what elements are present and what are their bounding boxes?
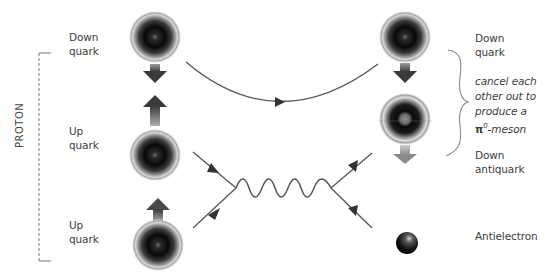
down-quark-right xyxy=(379,11,431,83)
up-quark-bottom xyxy=(132,198,184,271)
direction-arrow-icon xyxy=(275,97,285,107)
label-up-quark-middle: Up quark xyxy=(69,124,99,152)
down-quark-worldline xyxy=(186,62,378,107)
vertex-arrows xyxy=(207,160,358,220)
label-down-antiquark: Down antiquark xyxy=(475,148,524,176)
annotation-line: other out to xyxy=(475,89,537,104)
direction-arrow-icon xyxy=(208,208,220,220)
pi-symbol: π xyxy=(475,123,483,135)
label-down-quark-left: Down quark xyxy=(69,30,99,58)
interaction-vertices xyxy=(193,152,372,228)
down-antiquark xyxy=(378,93,432,164)
label-line: quark xyxy=(69,138,99,152)
proton-label: PROTON xyxy=(14,103,25,148)
label-line: Up xyxy=(69,218,99,232)
label-down-quark-right: Down quark xyxy=(475,31,505,59)
pi-meson-line: π0-meson xyxy=(475,119,537,137)
label-line: quark xyxy=(69,232,99,246)
label-line: Down xyxy=(475,31,505,45)
label-line: Down xyxy=(69,30,99,44)
label-line: Down xyxy=(475,148,524,162)
down-quark-left xyxy=(129,11,181,83)
label-antielectron: Antielectron xyxy=(475,229,538,243)
annotation-line: cancel each xyxy=(475,74,537,89)
direction-arrow-icon xyxy=(348,160,358,172)
spin-up-arrow-icon xyxy=(143,95,167,126)
label-line: quark xyxy=(475,45,505,59)
pi-suffix: -meson xyxy=(488,123,526,135)
up-quark-middle xyxy=(129,95,181,181)
label-line: Up xyxy=(69,124,99,138)
annotation-line: produce a xyxy=(475,104,537,119)
spin-down-arrow-icon xyxy=(143,64,167,83)
curly-brace xyxy=(446,50,468,156)
spin-down-arrow-icon xyxy=(393,145,417,164)
label-line: quark xyxy=(69,44,99,58)
antielectron xyxy=(396,232,418,254)
annotation-cancel: cancel each other out to produce a π0-me… xyxy=(475,74,537,137)
spin-down-arrow-icon xyxy=(393,63,417,83)
label-up-quark-bottom: Up quark xyxy=(69,218,99,246)
proton-bracket xyxy=(39,53,51,261)
label-line: Antielectron xyxy=(475,229,538,243)
label-line: antiquark xyxy=(475,162,524,176)
